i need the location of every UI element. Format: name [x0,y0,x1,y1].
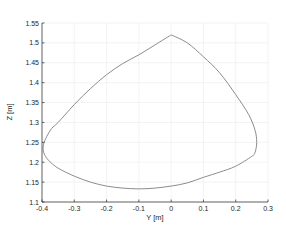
series-line-trajectory [43,35,257,189]
y-axis-label: Z [m] [5,103,14,120]
x-tick-label: 0.1 [199,205,209,212]
axes [42,23,268,202]
y-tick-label: 1.25 [25,139,39,146]
x-tick-label: -0.2 [101,205,113,212]
y-tick-label: 1.45 [25,59,39,66]
x-tick-label: -0.3 [68,205,80,212]
x-tick-label: 0 [169,205,173,212]
y-tick-label: 1.2 [29,159,39,166]
y-tick-label: 1.55 [25,20,39,27]
chart: -0.4-0.3-0.2-0.100.10.20.3 1.11.151.21.2… [0,0,286,237]
x-ticks: -0.4-0.3-0.2-0.100.10.20.3 [36,200,273,213]
y-tick-label: 1.35 [25,99,39,106]
y-tick-label: 1.4 [29,79,39,86]
x-tick-label: -0.1 [133,205,145,212]
grid [42,23,268,202]
x-axis-label: Y [m] [146,213,163,222]
y-tick-label: 1.15 [25,179,39,186]
y-tick-label: 1.3 [29,119,39,126]
y-tick-label: 1.1 [29,199,39,206]
x-tick-label: -0.4 [36,205,48,212]
curve-layer [43,35,257,189]
x-tick-label: 0.3 [263,205,273,212]
x-tick-label: 0.2 [231,205,241,212]
y-tick-label: 1.5 [29,39,39,46]
y-ticks: 1.11.151.21.251.31.351.41.451.51.55 [25,20,44,206]
